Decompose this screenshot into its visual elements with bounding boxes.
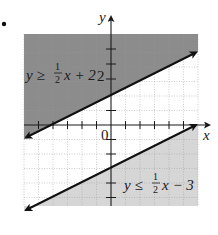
- svg-text:x + 2: x + 2: [63, 67, 96, 83]
- svg-text:1: 1: [55, 61, 60, 72]
- svg-text:2: 2: [55, 74, 60, 85]
- svg-text:y ≥: y ≥: [24, 67, 45, 83]
- y-axis-label: y: [97, 9, 106, 25]
- figure-label-dot: [2, 22, 6, 26]
- svg-text:2: 2: [153, 184, 158, 195]
- y-tick-label-2: 2: [97, 68, 105, 84]
- x-axis-label: x: [202, 127, 210, 143]
- svg-text:1: 1: [153, 171, 158, 182]
- svg-text:y ≤: y ≤: [122, 177, 143, 193]
- origin-label: 0: [101, 127, 109, 143]
- svg-text:x − 3: x − 3: [161, 177, 194, 193]
- inequality-graph: y x 0 2 y ≥ 1 2 x + 2 y ≤ 1 2 x − 3: [0, 0, 218, 235]
